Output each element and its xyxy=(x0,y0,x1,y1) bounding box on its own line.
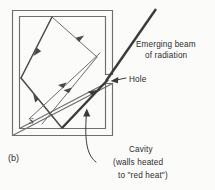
hole-label: Hole xyxy=(129,75,147,84)
beam-interior-segment xyxy=(62,80,108,129)
cavity-inner-wall xyxy=(20,17,106,129)
ray-segment-right-to-top xyxy=(52,17,97,57)
internal-ray-path xyxy=(21,17,100,128)
ray-segment-top-to-left xyxy=(21,17,52,78)
hole-leader-arrowhead xyxy=(111,77,119,83)
cavity-label-line3: to "red heat") xyxy=(118,171,168,180)
figure-labels: Emerging beam of radiation Hole Cavity (… xyxy=(8,40,196,180)
blackbody-cavity-figure: Emerging beam of radiation Hole Cavity (… xyxy=(0,0,215,190)
figure-canvas: Emerging beam of radiation Hole Cavity (… xyxy=(0,0,215,190)
ray-arrow-bottom-to-right xyxy=(64,88,73,94)
callout-leaders xyxy=(83,77,126,162)
cavity-leader-line xyxy=(86,113,96,162)
cavity-label-line2: (walls heated xyxy=(113,158,163,167)
emerging-beam xyxy=(62,9,156,128)
cavity-leader-arrowhead xyxy=(83,109,90,117)
panel-label: (b) xyxy=(8,153,19,163)
emerging-beam-label-line2: of radiation xyxy=(145,51,188,60)
cavity-label-line1: Cavity xyxy=(129,145,153,154)
cavity-walls xyxy=(13,11,113,136)
cavity-outer-wall xyxy=(13,11,113,136)
emerging-beam-label-line1: Emerging beam xyxy=(136,40,196,49)
ray-arrow-right-to-top xyxy=(76,35,85,42)
source-label: S xyxy=(29,116,34,126)
